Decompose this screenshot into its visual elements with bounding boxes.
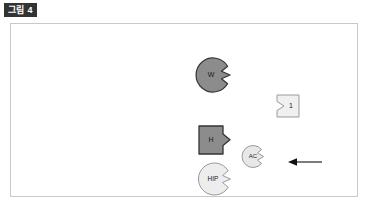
- shape-box1-path: [277, 95, 299, 117]
- arrow-head: [288, 158, 297, 166]
- shape-ac[interactable]: AC: [241, 144, 273, 170]
- arrow-left-icon: [286, 156, 326, 168]
- figure-root: 그림 4 W 1 H: [0, 0, 370, 209]
- figure-caption-badge: 그림 4: [4, 3, 37, 17]
- shape-box1[interactable]: 1: [273, 93, 307, 119]
- shape-ac-path: [242, 146, 263, 168]
- shape-h[interactable]: H: [197, 124, 237, 156]
- shape-w-path: [196, 58, 230, 92]
- shape-h-path: [199, 126, 230, 154]
- diagram-stage: W 1 H AC: [11, 24, 357, 196]
- diagram-frame: W 1 H AC: [10, 23, 358, 197]
- shape-hip-path: [198, 163, 230, 195]
- shape-w[interactable]: W: [194, 56, 238, 94]
- shape-hip[interactable]: HIP: [197, 161, 239, 197]
